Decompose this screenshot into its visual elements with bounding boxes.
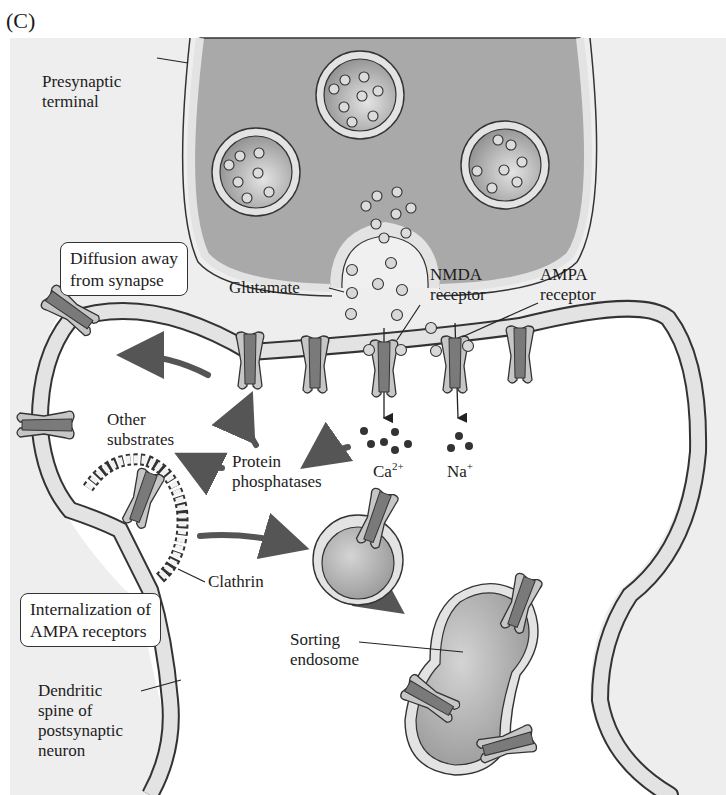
dendritic-spine-label: Dendritic spine of postsynaptic neuron <box>38 681 123 761</box>
ampa-receptor-label: AMPA receptor <box>540 265 596 305</box>
ampa-receptor-lateral <box>17 411 74 439</box>
presynaptic-terminal-label: Presynaptic terminal <box>42 72 121 112</box>
ampa-receptor <box>301 336 329 393</box>
other-substrates-label: Other substrates <box>107 410 174 450</box>
internalization-box: Internalization of AMPA receptors <box>20 593 161 647</box>
synapse-diagram <box>0 0 726 795</box>
protein-phosphatases-label: Protein phosphatases <box>232 452 322 492</box>
calcium-label: Ca2+ <box>373 456 404 482</box>
sorting-endosome-label: Sorting endosome <box>290 630 359 670</box>
synaptic-vesicle <box>212 128 300 216</box>
nmda-receptor-label: NMDA receptor <box>430 265 486 305</box>
sodium-label: Na+ <box>447 456 473 482</box>
diffusion-box: Diffusion away from synapse <box>60 242 188 296</box>
ampa-receptor <box>236 332 264 389</box>
synaptic-vesicle <box>316 51 404 139</box>
ampa-receptor <box>506 326 534 383</box>
glutamate-label: Glutamate <box>229 278 300 298</box>
clathrin-label: Clathrin <box>208 572 264 592</box>
synaptic-vesicle <box>461 121 549 209</box>
